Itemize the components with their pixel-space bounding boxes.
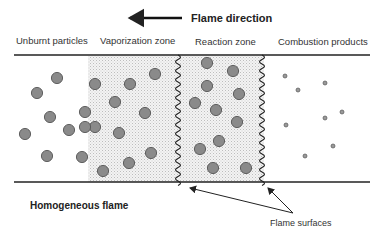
fuel-particle — [113, 127, 124, 138]
fuel-particle — [44, 111, 55, 122]
product-particle — [284, 123, 288, 127]
fuel-particle — [227, 65, 238, 76]
product-particle — [331, 144, 335, 148]
fuel-particle — [231, 116, 242, 127]
fuel-particle — [210, 104, 221, 115]
zone-label-unburnt: Unburnt particles — [16, 35, 88, 46]
fuel-particle — [19, 128, 30, 139]
fuel-particle — [145, 147, 156, 158]
fuel-particle — [63, 124, 74, 135]
fuel-particle — [201, 80, 212, 91]
product-particle — [323, 116, 327, 120]
fuel-particle — [76, 151, 87, 162]
fuel-particle — [109, 96, 120, 107]
fuel-particle — [124, 78, 135, 89]
fuel-particle — [97, 165, 108, 176]
fuel-particle — [240, 162, 251, 173]
fuel-particle — [89, 121, 100, 132]
fuel-particle — [79, 121, 90, 132]
flame-surface-arrow-left — [190, 188, 293, 213]
fuel-particle — [233, 88, 244, 99]
fuel-particle — [31, 87, 42, 98]
zone-label-reaction: Reaction zone — [195, 36, 256, 47]
product-particle — [340, 110, 344, 114]
fuel-particle — [194, 143, 205, 154]
flame-surfaces-label: Flame surfaces — [270, 218, 332, 228]
flame-surface-arrow-right — [268, 188, 293, 213]
product-particle — [283, 74, 287, 78]
fuel-particle — [189, 97, 200, 108]
product-particle — [296, 88, 300, 92]
product-particle — [323, 81, 327, 85]
fuel-particle — [139, 107, 150, 118]
homogeneous-flame-caption: Homogeneous flame — [30, 200, 128, 211]
fuel-particle — [149, 68, 160, 79]
fuel-particle — [89, 78, 100, 89]
fuel-particle — [213, 135, 224, 146]
zone-label-combustion: Combustion products — [278, 36, 368, 47]
fuel-particle — [41, 150, 52, 161]
fuel-particle — [207, 162, 218, 173]
flame-direction-label: Flame direction — [191, 12, 272, 24]
fuel-particle — [79, 106, 90, 117]
product-particle — [303, 154, 307, 158]
fuel-particle — [123, 157, 134, 168]
zone-label-vaporization: Vaporization zone — [100, 35, 175, 46]
fuel-particle — [201, 57, 212, 68]
fuel-particle — [51, 72, 62, 83]
